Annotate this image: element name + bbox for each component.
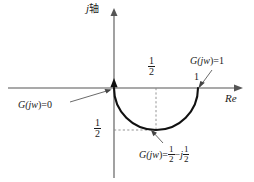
imaginary-axis-label: j轴 [86,3,99,14]
annotation-midpoint-w: w [152,150,159,160]
imaginary-axis-arrowhead [111,8,118,16]
leader-line-origin [70,90,110,102]
tick-label-one-real: 1 [194,72,199,82]
fraction-denominator: 2 [183,154,190,164]
tick-label-half-imaginary: 1 2 [94,118,101,140]
annotation-midpoint-prefix: G( [139,150,150,160]
fraction-denominator: 2 [148,66,155,77]
fraction-half-imaginary: 1 2 [94,118,101,140]
annotation-unity-prefix: G( [190,55,201,66]
leader-arrow-origin [105,89,112,94]
fraction-numerator: 1 [94,118,101,128]
fraction-imaginary-part: 12 [183,145,190,165]
annotation-midpoint-equals: )= [159,150,168,160]
real-axis-arrowhead [234,85,243,92]
locus-direction-arrowhead [110,78,117,87]
annotation-unity-w: w [203,55,210,66]
annotation-unity: G(jw)=1 [190,56,224,66]
tick-label-half-real: 1 2 [148,56,155,78]
fraction-half-real: 1 2 [148,56,155,78]
annotation-origin: G(jw)=0 [18,100,52,110]
annotation-midpoint: G(jw)=12−j12 [139,145,189,165]
real-axis-label: Re [225,93,237,104]
imaginary-axis-label-cjk: 轴 [89,3,99,14]
plot-canvas [0,0,254,182]
annotation-origin-suffix: )=0 [38,99,52,110]
annotation-unity-suffix: )=1 [210,55,224,66]
fraction-numerator: 1 [183,145,190,154]
annotation-origin-w: w [31,99,38,110]
fraction-denominator: 2 [94,128,101,139]
fraction-numerator: 1 [148,56,155,66]
annotation-origin-prefix: G( [18,99,29,110]
nyquist-plot-figure: j轴 Re 1 2 1 1 2 G(jw)=0 G(jw)=1 G(jw)=12… [0,0,254,182]
annotation-midpoint-equation: G(jw)=12−j12 [139,145,189,165]
